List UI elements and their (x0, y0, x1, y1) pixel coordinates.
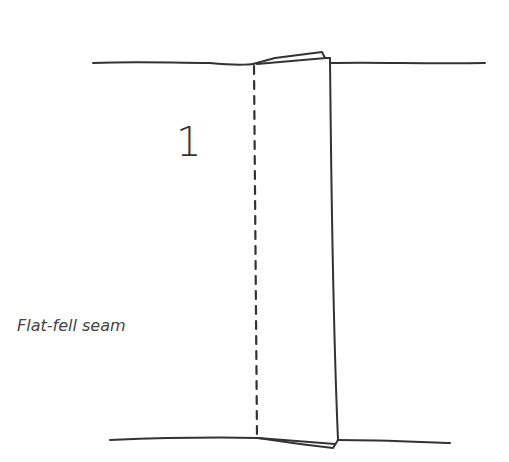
bottom-fabric-edge (110, 438, 258, 440)
seam-illustration (0, 0, 509, 462)
flat-fell-seam-diagram: 1 Flat-fell seam (0, 0, 509, 462)
stitch-line (254, 66, 257, 436)
step-number: 1 (176, 122, 201, 162)
folded-edge (330, 58, 338, 440)
top-fabric-edge (93, 62, 253, 65)
diagram-caption: Flat-fell seam (17, 316, 126, 335)
